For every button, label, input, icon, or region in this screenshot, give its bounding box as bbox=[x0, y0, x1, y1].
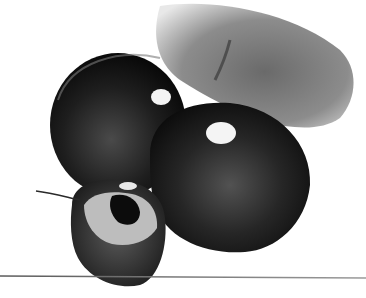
cherry-cut bbox=[71, 180, 166, 287]
highlight bbox=[206, 122, 236, 144]
cherries-illustration bbox=[0, 0, 366, 298]
highlight bbox=[151, 89, 171, 105]
stem bbox=[36, 191, 80, 200]
ground-line bbox=[0, 276, 366, 278]
